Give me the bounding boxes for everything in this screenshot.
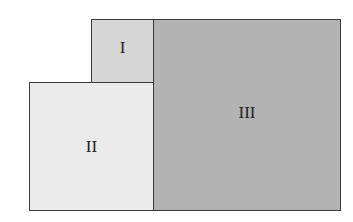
region-iii-label: III bbox=[239, 103, 256, 123]
region-iii: III bbox=[153, 19, 341, 211]
region-ii-label: II bbox=[86, 137, 97, 157]
region-i: I bbox=[91, 19, 154, 83]
region-i-label: I bbox=[120, 38, 126, 58]
region-ii: II bbox=[29, 82, 154, 211]
